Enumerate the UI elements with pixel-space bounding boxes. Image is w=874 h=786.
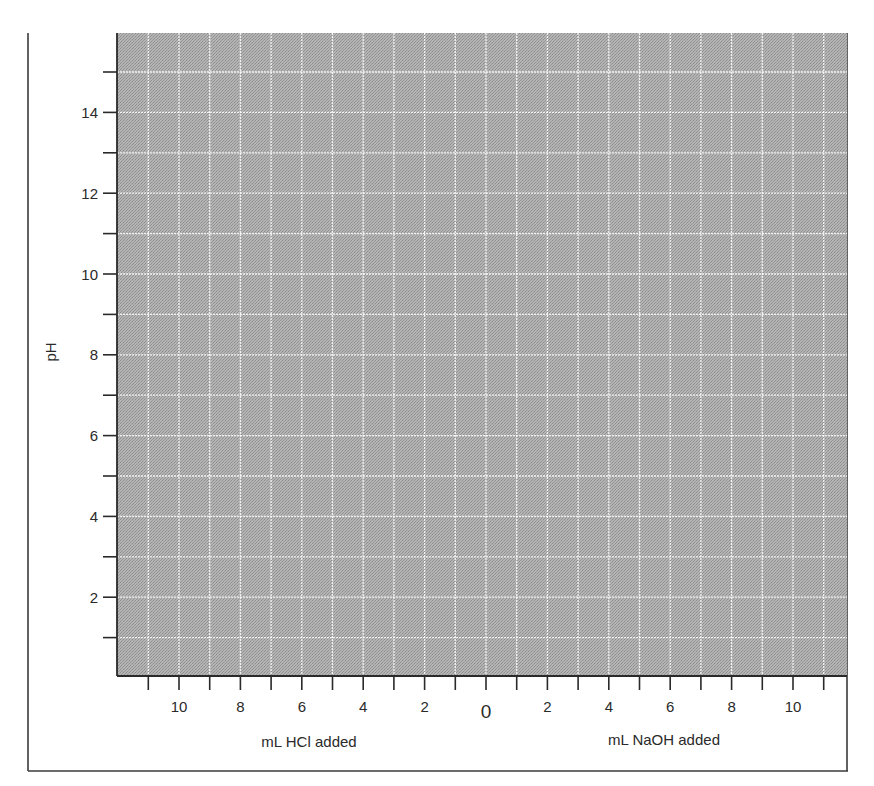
x-axis-label-naoh: mL NaOH added	[608, 731, 720, 748]
y-axis-label: pH	[42, 342, 59, 361]
x-tick-label: 6	[298, 698, 306, 715]
x-tick-label: 4	[359, 698, 367, 715]
y-tick-label: 8	[90, 346, 98, 363]
y-tick-label: 2	[90, 589, 98, 606]
y-tick-label: 4	[90, 508, 98, 525]
x-tick-label: 2	[420, 698, 428, 715]
titration-graph: 2468101214 1086420246810 pH mL HCl added…	[0, 0, 874, 786]
y-tick-label: 14	[81, 104, 98, 121]
chart-figure: 2468101214 1086420246810 pH mL HCl added…	[0, 0, 874, 786]
y-tick-label: 12	[81, 185, 98, 202]
x-tick-label: 4	[605, 698, 613, 715]
x-tick-label: 0	[481, 701, 492, 722]
x-tick-label: 8	[236, 698, 244, 715]
x-tick-label: 2	[543, 698, 551, 715]
x-axis-ticks: 1086420246810	[148, 676, 823, 722]
y-axis-ticks: 2468101214	[81, 72, 117, 638]
y-tick-label: 6	[90, 427, 98, 444]
x-tick-label: 10	[785, 698, 802, 715]
x-tick-label: 10	[171, 698, 188, 715]
x-tick-label: 6	[666, 698, 674, 715]
x-tick-label: 8	[727, 698, 735, 715]
y-tick-label: 10	[81, 266, 98, 283]
x-axis-label-hcl: mL HCl added	[261, 733, 356, 750]
